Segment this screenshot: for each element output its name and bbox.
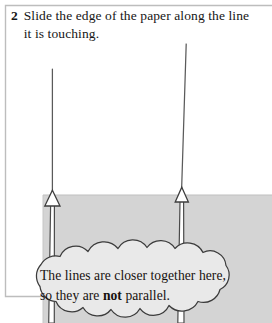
figure-container: 2 Slide the edge of the paper along the … bbox=[0, 0, 272, 323]
callout-line-2-before: so they are bbox=[40, 288, 103, 303]
callout-line-2-after: parallel. bbox=[122, 288, 170, 303]
step-number: 2 bbox=[11, 7, 18, 24]
callout-emphasis-not: not bbox=[103, 288, 122, 303]
step-text: Slide the edge of the paper along the li… bbox=[24, 7, 251, 42]
callout-text: The lines are closer together here, so t… bbox=[40, 266, 255, 306]
step-instruction: 2 Slide the edge of the paper along the … bbox=[11, 7, 251, 42]
callout-line-1: The lines are closer together here, bbox=[40, 268, 226, 283]
right-line bbox=[182, 44, 187, 190]
